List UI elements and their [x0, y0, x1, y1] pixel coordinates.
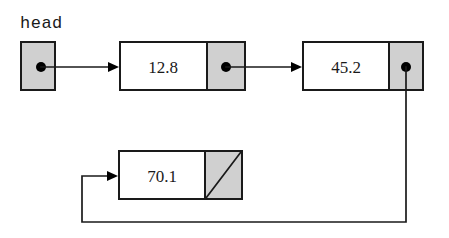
node-1[interactable]: 12.8 — [120, 42, 245, 90]
head-label: head — [20, 14, 63, 33]
linked-list-diagram-canvas: head 12.8 45.2 — [0, 0, 449, 238]
head-pointer-box[interactable] — [21, 42, 55, 90]
node-2[interactable]: 45.2 — [303, 42, 423, 90]
node-3[interactable]: 70.1 — [119, 151, 242, 199]
link-head-to-node-1-arrowhead — [108, 62, 119, 72]
node-2-value: 45.2 — [331, 58, 361, 77]
linked-list-diagram: head 12.8 45.2 — [0, 0, 449, 238]
node-1-value: 12.8 — [148, 58, 178, 77]
link-node-2-to-node-3-arrowhead — [107, 171, 118, 181]
link-node-1-to-node-2-arrowhead — [291, 62, 302, 72]
node-3-value: 70.1 — [147, 167, 177, 186]
